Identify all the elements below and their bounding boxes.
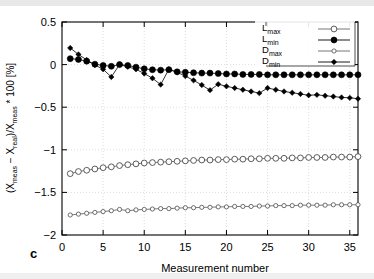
data-point-lmin xyxy=(67,56,73,62)
x-tick-label: 5 xyxy=(100,241,106,253)
data-point-lmax xyxy=(76,169,82,175)
x-tick-label: 25 xyxy=(261,241,273,253)
data-point-lmax xyxy=(108,164,114,170)
y-label-part-3: )/X xyxy=(5,123,16,136)
data-point-dmax xyxy=(167,206,171,210)
y-label-part-4: * 100 [%] xyxy=(5,63,16,107)
data-point-lmin xyxy=(207,70,213,76)
data-point-lmin xyxy=(199,70,205,76)
data-point-lmin xyxy=(191,70,197,76)
data-point-lmax xyxy=(306,155,312,161)
data-point-lmax xyxy=(256,156,262,162)
chart-legend: LmaxLminDmaxDmin xyxy=(255,18,355,68)
y-tick-label: 0.5 xyxy=(41,16,56,28)
data-point-dmax xyxy=(257,204,261,208)
data-point-dmax xyxy=(76,212,80,216)
data-point-dmax xyxy=(68,213,72,217)
x-tick-label: 20 xyxy=(220,241,232,253)
legend-sub-d-max: max xyxy=(269,50,283,57)
data-point-dmax xyxy=(93,210,97,214)
chart-figure: 05101520253035 0.50−0.5−1−1.5−2 LmaxLmin… xyxy=(0,0,374,279)
legend-marker-l-min xyxy=(331,37,337,43)
data-point-dmax xyxy=(159,206,163,210)
data-point-lmax xyxy=(281,155,287,161)
data-point-lmax xyxy=(117,163,123,169)
y-label-sub-1: meas xyxy=(11,165,18,183)
data-point-lmax xyxy=(150,160,156,166)
data-point-dmax xyxy=(356,203,360,207)
data-point-dmax xyxy=(109,209,113,213)
data-point-lmin xyxy=(232,71,238,77)
data-point-lmin xyxy=(256,71,262,77)
panel-label: c xyxy=(30,246,37,261)
data-point-lmin xyxy=(149,67,155,73)
data-point-lmax xyxy=(191,158,197,164)
y-label-part-1: (X xyxy=(5,183,16,193)
data-point-dmax xyxy=(298,203,302,207)
data-point-lmax xyxy=(182,158,188,164)
data-point-dmax xyxy=(150,207,154,211)
data-point-lmax xyxy=(265,155,271,161)
data-point-dmax xyxy=(142,207,146,211)
data-point-lmax xyxy=(289,155,295,161)
data-point-lmax xyxy=(92,166,98,172)
data-point-dmax xyxy=(101,209,105,213)
data-point-dmax xyxy=(216,205,220,209)
data-point-dmax xyxy=(331,203,335,207)
data-point-lmin xyxy=(330,72,336,78)
x-tick-label: 15 xyxy=(179,241,191,253)
data-point-dmax xyxy=(183,206,187,210)
data-point-lmax xyxy=(100,165,106,171)
data-point-lmax xyxy=(224,157,230,163)
data-point-dmax xyxy=(323,203,327,207)
legend-marker-l-max xyxy=(331,26,337,32)
data-point-lmax xyxy=(158,159,164,165)
data-point-lmax xyxy=(125,162,131,168)
data-point-lmax xyxy=(207,157,213,163)
y-tick-label: −2 xyxy=(43,229,56,241)
y-label-sub-3: meas xyxy=(11,106,18,124)
data-point-lmin xyxy=(248,71,254,77)
data-point-lmin xyxy=(223,71,229,77)
data-point-lmax xyxy=(330,154,336,160)
data-point-lmax xyxy=(232,156,238,162)
data-point-lmax xyxy=(141,160,147,166)
data-point-dmax xyxy=(241,204,245,208)
data-point-dmax xyxy=(224,205,228,209)
legend-sub-l-min: min xyxy=(267,39,278,46)
data-point-dmax xyxy=(117,207,121,211)
data-point-lmax xyxy=(199,157,205,163)
data-point-dmax xyxy=(315,203,319,207)
data-point-lmin xyxy=(289,72,295,78)
legend-sub-l-max: max xyxy=(267,28,281,35)
data-point-lmax xyxy=(215,157,221,163)
data-point-lmin xyxy=(273,72,279,78)
data-point-dmax xyxy=(348,203,352,207)
data-point-dmax xyxy=(339,203,343,207)
data-point-dmax xyxy=(134,208,138,212)
data-point-dmax xyxy=(307,203,311,207)
data-point-dmax xyxy=(191,206,195,210)
data-point-lmin xyxy=(240,71,246,77)
data-point-dmax xyxy=(200,205,204,209)
data-point-dmax xyxy=(265,204,269,208)
legend-marker-d-max xyxy=(332,49,336,53)
x-tick-label: 30 xyxy=(303,241,315,253)
data-point-dmax xyxy=(274,204,278,208)
data-point-lmin xyxy=(339,72,345,78)
y-tick-label: −0.5 xyxy=(34,101,56,113)
data-point-lmin xyxy=(297,72,303,78)
y-tick-label: 0 xyxy=(50,59,56,71)
data-point-lmax xyxy=(166,159,172,165)
data-point-dmax xyxy=(290,204,294,208)
data-point-lmax xyxy=(347,154,353,160)
data-point-lmin xyxy=(322,72,328,78)
data-point-dmax xyxy=(282,204,286,208)
x-axis-label: Measurement number xyxy=(161,262,269,274)
data-point-lmax xyxy=(339,154,345,160)
x-tick-label: 35 xyxy=(344,241,356,253)
data-point-lmin xyxy=(215,71,221,77)
data-point-lmax xyxy=(314,155,320,161)
y-label-part-2: − X xyxy=(5,148,16,166)
data-point-lmax xyxy=(133,161,139,167)
